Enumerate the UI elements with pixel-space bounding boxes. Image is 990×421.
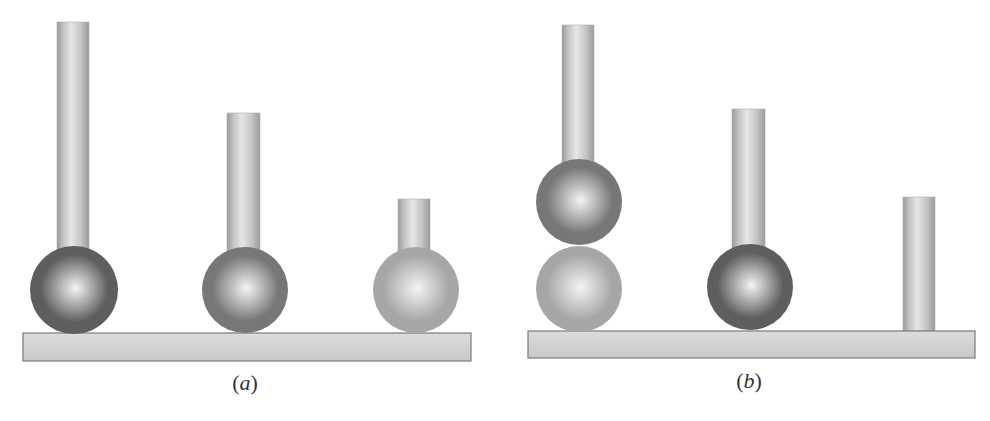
panel-a — [23, 22, 471, 361]
sphere-light — [536, 246, 622, 332]
rod-1 — [562, 25, 594, 165]
rod-2 — [732, 109, 765, 249]
label-letter: a — [240, 370, 251, 395]
label-close-paren: ) — [755, 368, 762, 393]
panel-b-label: (b) — [736, 368, 762, 394]
rod-3 — [903, 197, 935, 331]
base-plate — [23, 333, 471, 361]
sphere-dark — [707, 244, 793, 330]
rod-3 — [398, 199, 430, 252]
sphere-medium — [202, 247, 288, 333]
label-close-paren: ) — [251, 370, 258, 395]
sphere-medium — [536, 159, 622, 245]
panel-b — [528, 25, 975, 358]
base-plate — [528, 331, 975, 358]
diagram-canvas — [0, 0, 990, 421]
panel-a-label: (a) — [232, 370, 258, 396]
sphere-light — [373, 247, 459, 333]
figure: (a) (b) — [0, 0, 990, 421]
rod-2 — [227, 113, 260, 252]
sphere-dark — [30, 246, 118, 334]
rod-1 — [57, 22, 89, 252]
label-letter: b — [744, 368, 755, 393]
